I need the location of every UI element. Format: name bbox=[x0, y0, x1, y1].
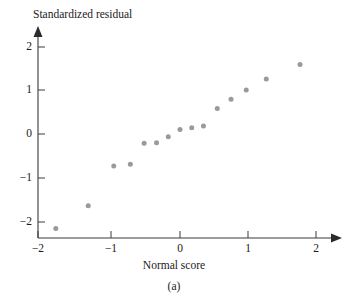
data-point bbox=[53, 226, 58, 231]
y-axis-arrow-icon bbox=[34, 26, 43, 37]
x-tick-label: 1 bbox=[245, 243, 251, 255]
y-tick-label: −1 bbox=[8, 172, 32, 184]
data-point bbox=[128, 162, 133, 167]
data-point bbox=[154, 140, 159, 145]
x-axis-title: Normal score bbox=[0, 259, 348, 271]
x-tick-marks bbox=[38, 231, 316, 238]
normal-probability-plot-figure: −2 −1 0 1 2 2 1 0 −1 −2 Standardized res… bbox=[0, 0, 348, 301]
data-point bbox=[86, 203, 91, 208]
data-point bbox=[298, 62, 303, 67]
data-point bbox=[189, 125, 194, 130]
figure-caption: (a) bbox=[0, 280, 348, 292]
x-tick-label: −1 bbox=[105, 243, 117, 255]
data-point bbox=[215, 106, 220, 111]
data-point bbox=[244, 88, 249, 93]
x-tick-label: 0 bbox=[177, 243, 183, 255]
scatter-points-group bbox=[53, 62, 302, 231]
data-point bbox=[166, 134, 171, 139]
y-tick-label: 0 bbox=[8, 128, 32, 140]
x-tick-label: −2 bbox=[32, 243, 44, 255]
y-tick-label: 1 bbox=[8, 84, 32, 96]
data-point bbox=[178, 127, 183, 132]
y-tick-label: −2 bbox=[8, 216, 32, 228]
data-point bbox=[229, 97, 234, 102]
y-tick-label: 2 bbox=[8, 41, 32, 53]
data-point bbox=[111, 164, 116, 169]
plot-canvas bbox=[0, 0, 348, 301]
y-axis-title: Standardized residual bbox=[33, 8, 132, 20]
data-point bbox=[264, 77, 269, 82]
y-tick-marks bbox=[38, 47, 45, 222]
x-axis-arrow-icon bbox=[331, 234, 342, 243]
x-tick-label: 2 bbox=[313, 243, 319, 255]
data-point bbox=[142, 141, 147, 146]
data-point bbox=[201, 124, 206, 129]
